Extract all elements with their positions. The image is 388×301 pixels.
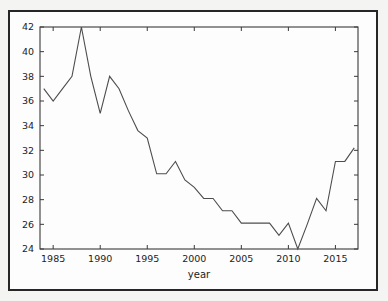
y-tick-label: 26: [22, 219, 34, 230]
chart-figure: 24262830323436384042 1985199019952000200…: [0, 0, 388, 301]
x-tick-label: 2005: [229, 253, 253, 264]
y-tick-label: 38: [22, 71, 34, 82]
x-tick-label: 1985: [41, 253, 65, 264]
x-tick-label: 2000: [182, 253, 206, 264]
y-tick-label: 40: [22, 46, 34, 57]
plot-wrapper: 24262830323436384042 1985199019952000200…: [0, 0, 388, 301]
x-tick-label: 1995: [135, 253, 159, 264]
x-tick-label: 1990: [88, 253, 112, 264]
y-tick-label: 42: [22, 21, 34, 32]
y-tick-label: 24: [22, 243, 34, 254]
x-axis-title: year: [188, 269, 211, 280]
x-tick-label: 2015: [323, 253, 347, 264]
line-chart-canvas: 24262830323436384042 1985199019952000200…: [0, 0, 388, 301]
x-tick-label: 2010: [276, 253, 300, 264]
y-tick-label: 30: [22, 169, 34, 180]
y-tick-label: 34: [22, 120, 34, 131]
y-tick-label: 28: [22, 194, 34, 205]
y-tick-label: 36: [22, 95, 34, 106]
y-tick-label: 32: [22, 145, 34, 156]
